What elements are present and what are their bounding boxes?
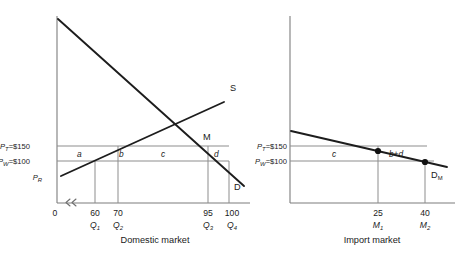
domestic-supply-curve-label: S [230, 83, 236, 93]
import-tick-label-m2: M2 [420, 220, 431, 231]
domestic-supply-curve [61, 102, 224, 176]
domestic-market-caption: Domestic market [121, 235, 190, 245]
import-tariff-price-label: PT=$150 [257, 142, 287, 152]
domestic-region-a-label: a [77, 149, 82, 159]
tariff-diagram-figure: PT=$150 PW=$100 PR S D M a b c d 0 60 Q1 [0, 0, 468, 261]
domestic-autarky-price-label: PR [33, 173, 43, 183]
diagram-svg: PT=$150 PW=$100 PR S D M a b c d 0 60 Q1 [0, 0, 468, 261]
import-point-m1-marker [375, 148, 381, 154]
import-tick-value-40: 40 [420, 208, 430, 218]
domestic-region-d-label: d [214, 149, 219, 159]
import-region-bplusd-label: b+d [389, 149, 404, 159]
domestic-tick-label-q4: Q4 [227, 220, 238, 231]
domestic-point-m-label: M [203, 132, 211, 142]
import-world-price-label: PW=$100 [255, 157, 287, 167]
domestic-tick-label-q2: Q2 [113, 220, 124, 231]
domestic-tariff-price-label: PT=$150 [0, 142, 30, 152]
domestic-tick-label-q1: Q1 [90, 220, 100, 231]
import-tick-value-25: 25 [373, 208, 383, 218]
domestic-region-b-label: b [119, 149, 124, 159]
panel-domestic-market: PT=$150 PW=$100 PR S D M a b c d 0 60 Q1 [0, 16, 250, 245]
domestic-tick-value-60: 60 [90, 208, 100, 218]
domestic-tick-label-q3: Q3 [203, 220, 214, 231]
import-point-m2-marker [422, 159, 428, 165]
domestic-world-price-label: PW=$100 [0, 157, 30, 167]
domestic-demand-curve-label: D [234, 182, 241, 192]
domestic-origin-label: 0 [53, 208, 58, 218]
domestic-region-c-label: c [161, 149, 166, 159]
domestic-tick-value-100: 100 [225, 208, 240, 218]
import-market-caption: Import market [344, 235, 401, 245]
domestic-tick-value-95: 95 [203, 208, 213, 218]
panel-import-market: PT=$150 PW=$100 DM c b+d 25 M1 40 M2 Imp… [255, 16, 455, 245]
import-tick-label-m1: M1 [373, 220, 383, 231]
import-region-c-label: c [332, 149, 337, 159]
domestic-tick-value-70: 70 [113, 208, 123, 218]
import-demand-curve-label: DM [431, 170, 443, 181]
